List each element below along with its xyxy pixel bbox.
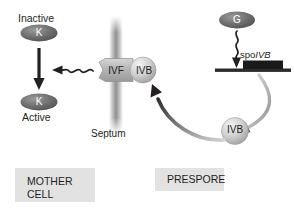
label-spoivf-complex: IVF xyxy=(103,65,129,77)
activation-arrow-k xyxy=(33,48,44,90)
label-septum: Septum xyxy=(91,128,125,140)
label-spoivb-in-prespore: IVB xyxy=(222,124,248,136)
compartment-mother-cell: MOTHER CELL xyxy=(15,168,95,202)
label-sigma-k-inactive-state: Inactive xyxy=(18,12,54,24)
compartment-mother-cell-line2: CELL xyxy=(27,188,85,201)
label-sigma-g-symbol: G xyxy=(229,14,245,26)
label-sigma-k-inactive-symbol: K xyxy=(31,27,47,39)
label-sigma-k-active-state: Active xyxy=(22,111,51,123)
gene-label-prefix: spo xyxy=(240,49,255,60)
compartment-mother-cell-line1: MOTHER xyxy=(27,175,85,188)
label-spoivb-at-septum: IVB xyxy=(131,65,157,77)
label-spoivb-gene: spoIVB xyxy=(240,49,271,60)
spoivb-gene-locus xyxy=(215,61,291,72)
signal-wavy-arrow-ivf-to-k xyxy=(52,66,93,75)
compartment-prespore: PRESPORE xyxy=(155,168,224,191)
label-sigma-k-active-symbol: K xyxy=(31,96,47,108)
translocation-arrow-ivb-to-septum xyxy=(151,84,225,140)
compartment-prespore-line1: PRESPORE xyxy=(167,173,214,186)
gene-label-italic: IVB xyxy=(255,49,270,60)
